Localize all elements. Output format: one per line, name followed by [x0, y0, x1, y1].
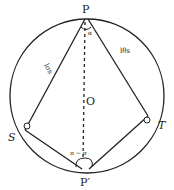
segment-PT: [88, 19, 148, 116]
angle-label-P-prime: π − σ: [70, 149, 87, 156]
diameter-PP-prime: [83, 22, 85, 160]
segment-TP-prime: [89, 116, 148, 169]
circle-diagram: P P′ O S T α π − σ lσs lθs: [0, 0, 174, 190]
label-T: T: [158, 119, 167, 132]
label-P-prime: P′: [80, 176, 90, 189]
label-P: P: [82, 3, 90, 16]
right-angle-marker-T: [144, 117, 150, 123]
segment-PS: [25, 19, 85, 130]
angle-label-P: α: [88, 29, 92, 36]
segment-label-PS: lσs: [42, 62, 54, 75]
segment-label-PT: lθs: [120, 47, 130, 55]
angle-arc-P-prime: [76, 158, 92, 167]
label-O: O: [86, 95, 95, 108]
label-S: S: [8, 131, 16, 144]
right-angle-marker-S: [24, 123, 30, 129]
